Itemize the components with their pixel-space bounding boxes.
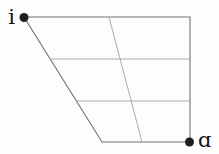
vertex-dot-i	[20, 13, 29, 22]
column-divider-central	[109, 17, 142, 142]
figure-canvas: iɑ	[0, 0, 219, 154]
outline-polygon	[24, 17, 190, 142]
vowel-quadrilateral-diagram: iɑ	[0, 0, 219, 154]
vertex-dot-alpha	[185, 138, 194, 147]
vertex-label-i: i	[8, 5, 15, 29]
vertex-label-alpha: ɑ	[198, 128, 211, 152]
